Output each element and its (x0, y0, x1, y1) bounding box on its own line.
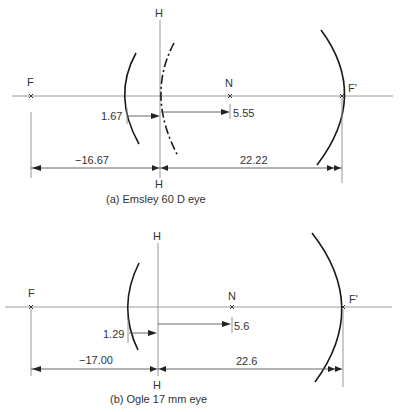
h-to-n-value: 5.6 (234, 320, 249, 332)
diagram-a: H H F 1.67 5.55 N F' (12, 7, 393, 205)
first-focal-point-label: F (28, 287, 35, 299)
nodal-point-label: N (225, 77, 233, 89)
arrowhead (327, 165, 334, 171)
arrowhead (222, 321, 231, 327)
arrowhead (328, 366, 335, 372)
second-focal-point-label: F' (349, 293, 358, 305)
posterior-focal-length-value: 22.22 (240, 154, 268, 166)
arrowhead (334, 165, 341, 171)
arrowhead (151, 113, 160, 119)
arrowhead (148, 330, 157, 336)
arrowhead (161, 165, 168, 171)
schematic-eye-figure: H H F 1.67 5.55 N F' (0, 0, 401, 412)
diagram-b-caption: (b) Ogle 17 mm eye (110, 393, 207, 405)
nodal-point-label: N (228, 290, 236, 302)
arrowhead (32, 165, 41, 171)
cornea-to-h-value: 1.67 (101, 110, 122, 122)
equivalent-refracting-surface (161, 43, 178, 156)
arrowhead (159, 366, 166, 372)
diagram-a-caption: (a) Emsley 60 D eye (106, 193, 206, 205)
arrowhead (150, 366, 157, 372)
diagram-b: H H F 1.29 5.6 N F' −17. (5, 230, 392, 405)
anterior-focal-length-value: −16.67 (75, 154, 109, 166)
arrowhead (32, 366, 41, 372)
principal-plane-label-bottom: H (155, 178, 163, 190)
first-focal-point-label: F (27, 76, 34, 88)
cornea-surface (125, 53, 139, 144)
arrowhead (335, 366, 342, 372)
second-focal-point-label: F' (348, 82, 357, 94)
anterior-focal-length-value: −17.00 (79, 354, 113, 366)
arrowhead (221, 109, 230, 115)
principal-plane-label-bottom: H (153, 379, 161, 391)
principal-plane-label-top: H (153, 230, 161, 242)
h-to-n-value: 5.55 (233, 107, 254, 119)
posterior-focal-length-value: 22.6 (236, 355, 257, 367)
cornea-to-h-value: 1.29 (103, 328, 124, 340)
principal-plane-label-top: H (155, 7, 163, 19)
arrowhead (152, 165, 159, 171)
